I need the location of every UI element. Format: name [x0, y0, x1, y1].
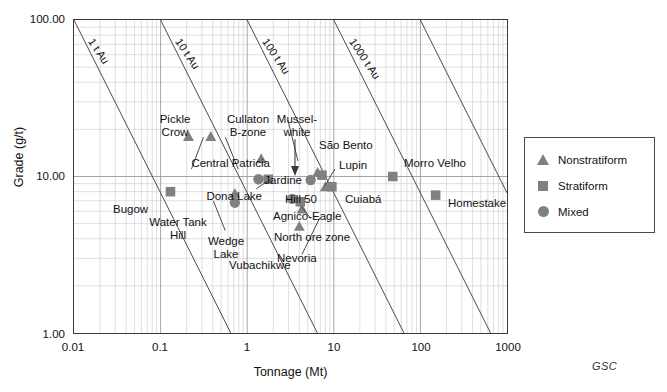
x-tick-0-01: 0.01 [38, 341, 108, 353]
legend-label: Mixed [558, 206, 589, 218]
plot-area: 1 t Au 10 t Au 100 t Au 1000 t Au Pickle… [73, 19, 508, 334]
legend-item-stratiform: Stratiform [536, 173, 654, 199]
label-central-patricia: Central Patricia [158, 157, 270, 170]
legend-label: Nonstratiform [558, 154, 627, 166]
legend-label: Stratiform [558, 180, 608, 192]
label-wedge-lake: WedgeLake [193, 235, 259, 260]
label-musselwhite: Mussel-white [260, 113, 334, 138]
label-hill-50: Hill 50 [285, 193, 317, 206]
label-morro-velho: Morro Velho [404, 157, 466, 170]
credit-gsc: GSC [592, 360, 617, 372]
label-agnico-eagle: Agnico-Eagle [273, 210, 341, 223]
x-tick-1000: 1000 [473, 341, 543, 353]
label-bugow: Bugow [113, 203, 148, 216]
label-homestake: Homestake [448, 197, 506, 210]
label-pickle-crow: PickleCrow [137, 113, 213, 138]
label-sao-bento: São Bento [319, 139, 373, 152]
legend-item-mixed: Mixed [536, 199, 654, 225]
label-jardine: Jardine [246, 174, 302, 187]
y-tick-100: 100.00 [5, 13, 65, 25]
circle-icon [536, 205, 558, 219]
triangle-icon [536, 153, 558, 167]
label-north-ore-zone: North ore zone [274, 231, 350, 244]
y-tick-1: 1.00 [5, 328, 65, 340]
x-tick-0-1: 0.1 [125, 341, 195, 353]
label-nevoria: Nevoria [277, 252, 317, 265]
label-cuiaba: Cuiabá [345, 193, 381, 206]
legend-item-nonstratiform: Nonstratiform [536, 147, 654, 173]
x-tick-1: 1 [212, 341, 282, 353]
y-axis-title: Grade (g/t) [12, 92, 26, 222]
label-dona-lake: Dona Lake [180, 190, 262, 203]
figure-root: 100.00 10.00 1.00 Grade (g/t) 0.01 0.1 1… [0, 0, 667, 392]
label-lupin: Lupin [339, 159, 367, 172]
x-tick-100: 100 [386, 341, 456, 353]
x-tick-10: 10 [299, 341, 369, 353]
legend: Nonstratiform Stratiform Mixed [524, 137, 655, 233]
square-icon [536, 179, 558, 193]
x-axis-title: Tonnage (Mt) [73, 365, 508, 379]
